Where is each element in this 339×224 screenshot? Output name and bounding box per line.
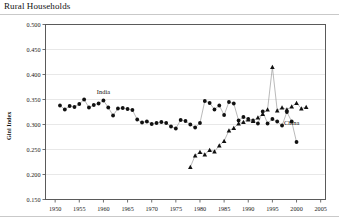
x-tick-label: 2005 <box>314 205 326 212</box>
data-point-india <box>77 102 81 106</box>
data-point-india <box>159 120 163 124</box>
data-point-china <box>188 165 193 169</box>
data-point-india <box>164 121 168 125</box>
data-point-india <box>217 104 221 108</box>
x-tick-label: 2000 <box>290 205 302 212</box>
data-point-india <box>116 107 120 111</box>
data-point-india <box>198 121 202 125</box>
series-annotation-india: India <box>97 88 110 95</box>
x-tick-label: 1965 <box>121 205 133 212</box>
data-point-china <box>241 120 246 124</box>
data-point-india <box>63 108 67 112</box>
data-point-india <box>193 126 197 130</box>
data-point-china <box>304 105 309 109</box>
data-point-india <box>82 98 86 102</box>
x-tick-label: 1970 <box>146 205 158 212</box>
x-tick-label: 1985 <box>218 205 230 212</box>
x-tick-label: 1960 <box>97 205 109 212</box>
y-tick-label: 0.350 <box>27 96 41 103</box>
data-point-india <box>140 121 144 125</box>
y-tick-label: 0.150 <box>27 196 41 203</box>
data-point-india <box>222 113 226 117</box>
data-point-india <box>232 102 236 106</box>
x-axis-ticks: 1950195519601965197019751980198519901995… <box>46 200 327 212</box>
y-tick-label: 0.200 <box>27 171 41 178</box>
data-point-india <box>111 114 115 118</box>
data-point-india <box>295 140 299 144</box>
data-point-india <box>102 99 106 103</box>
data-point-china <box>280 105 285 109</box>
data-point-india <box>174 127 178 131</box>
y-tick-label: 0.400 <box>27 71 41 78</box>
data-point-china <box>236 121 241 125</box>
data-point-india <box>271 117 275 121</box>
data-point-china <box>275 108 280 112</box>
data-point-china <box>294 101 299 105</box>
gridlines <box>46 50 326 175</box>
y-tick-label: 0.450 <box>27 46 41 53</box>
data-point-china <box>265 107 270 111</box>
annotation-layer: IndiaChina <box>97 88 300 126</box>
data-point-india <box>188 123 192 127</box>
data-point-india <box>213 108 217 112</box>
data-point-china <box>289 104 294 108</box>
data-point-india <box>208 101 212 105</box>
series-layer <box>58 65 308 169</box>
data-point-india <box>135 118 139 122</box>
y-axis-ticks: 0.1500.2000.2500.3000.3500.4000.4500.500 <box>27 21 46 203</box>
y-axis-title: Gini Index <box>5 111 12 140</box>
data-point-india <box>150 122 154 126</box>
data-point-china <box>222 139 227 143</box>
y-tick-label: 0.250 <box>27 146 41 153</box>
data-point-india <box>256 122 260 126</box>
x-tick-label: 1995 <box>266 205 278 212</box>
data-point-india <box>92 103 96 107</box>
x-tick-label: 1975 <box>170 205 182 212</box>
y-tick-label: 0.300 <box>27 121 41 128</box>
data-point-india <box>184 119 188 123</box>
data-point-india <box>242 115 246 119</box>
data-point-india <box>266 122 270 126</box>
series-line-china <box>190 67 306 167</box>
data-point-india <box>179 118 183 122</box>
data-point-india <box>73 105 77 109</box>
data-point-india <box>169 125 173 129</box>
data-point-india <box>227 100 231 104</box>
data-point-india <box>97 102 101 106</box>
x-tick-label: 1980 <box>194 205 206 212</box>
data-point-india <box>68 104 72 108</box>
data-point-india <box>87 106 91 110</box>
series-annotation-china: China <box>284 119 299 126</box>
gini-index-line-chart: 0.1500.2000.2500.3000.3500.4000.4500.500… <box>0 0 339 224</box>
data-point-china <box>256 115 261 119</box>
x-tick-label: 1990 <box>242 205 254 212</box>
data-point-india <box>275 120 279 124</box>
data-point-india <box>58 104 62 108</box>
data-point-china <box>285 107 290 111</box>
plot-frame <box>46 25 326 200</box>
x-tick-label: 1950 <box>49 205 61 212</box>
y-tick-label: 0.500 <box>27 21 41 28</box>
data-point-china <box>227 128 232 132</box>
data-point-india <box>203 99 207 103</box>
data-point-india <box>131 108 135 112</box>
x-tick-label: 1955 <box>73 205 85 212</box>
data-point-china <box>198 150 203 154</box>
data-point-china <box>193 153 198 157</box>
data-point-india <box>121 106 125 110</box>
data-point-india <box>126 107 130 111</box>
data-point-india <box>145 120 149 124</box>
data-point-india <box>106 106 110 110</box>
data-point-india <box>155 121 159 125</box>
data-point-china <box>270 65 275 69</box>
chart-figure: Rural Households 0.1500.2000.2500.3000.3… <box>0 0 339 224</box>
data-point-china <box>207 148 212 152</box>
